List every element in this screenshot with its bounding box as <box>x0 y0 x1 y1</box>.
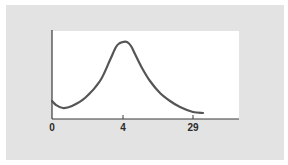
data-curve <box>52 42 203 113</box>
x-tick-label: 29 <box>187 122 198 134</box>
x-tick-label: 4 <box>120 122 126 134</box>
x-tick-label: 0 <box>49 122 55 134</box>
line-chart <box>0 0 288 165</box>
